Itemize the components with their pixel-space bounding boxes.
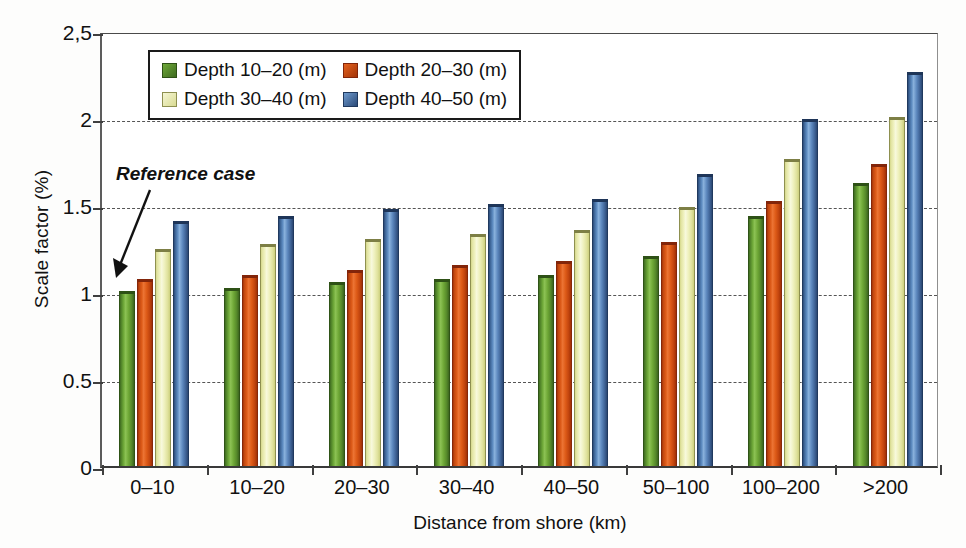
legend-item-label: Depth 20–30 (m) — [365, 59, 508, 81]
x-axis-tick — [207, 465, 209, 475]
bar-body — [137, 280, 153, 466]
legend-item-label: Depth 30–40 (m) — [184, 88, 327, 110]
bar-cap — [470, 234, 486, 237]
x-axis-tick — [731, 465, 733, 475]
bar-cap — [278, 216, 294, 219]
bar-body — [173, 222, 189, 466]
x-axis-tick — [940, 465, 942, 475]
bar-body — [889, 118, 905, 466]
y-axis-tick-label: 2,5 — [38, 21, 92, 45]
y-axis-tick-label: 2 — [38, 108, 92, 132]
bar — [224, 289, 240, 466]
bar — [173, 222, 189, 466]
bar-cap — [592, 199, 608, 202]
bar-body — [224, 289, 240, 466]
bar-cap — [260, 244, 276, 247]
bar-cap — [365, 239, 381, 242]
bar-cap — [766, 201, 782, 204]
bar-cap — [679, 207, 695, 210]
bar-body — [748, 217, 764, 466]
legend-item: Depth 10–20 (m) — [162, 59, 327, 81]
bar-cap — [853, 183, 869, 186]
legend-item-label: Depth 10–20 (m) — [184, 59, 327, 81]
reference-case-annotation: Reference case — [116, 163, 255, 185]
bar-body — [766, 202, 782, 466]
x-axis-tick — [102, 465, 104, 475]
bar-cap — [119, 291, 135, 294]
bar-body — [871, 165, 887, 466]
bar-body — [119, 292, 135, 466]
x-axis-category-label: >200 — [863, 476, 908, 499]
bar-body — [260, 245, 276, 466]
y-axis-tick-label: 0 — [38, 456, 92, 480]
bar — [853, 184, 869, 466]
legend-swatch-icon — [343, 63, 358, 78]
legend-item-label: Depth 40–50 (m) — [365, 88, 508, 110]
bar-body — [643, 257, 659, 466]
bar-body — [697, 175, 713, 466]
bar — [365, 240, 381, 466]
bar-cap — [347, 270, 363, 273]
x-axis-tick — [312, 465, 314, 475]
bar — [119, 292, 135, 466]
legend-swatch-icon — [343, 92, 358, 107]
bar-cap — [452, 265, 468, 268]
bar — [574, 231, 590, 466]
bar-cap — [224, 288, 240, 291]
chart-figure: Scale factor (%) 00.511.522,5 0–1010–202… — [0, 0, 966, 548]
bar-cap — [556, 261, 572, 264]
x-axis-title: Distance from shore (km) — [100, 512, 940, 534]
y-axis-tick-labels: 00.511.522,5 — [32, 33, 92, 468]
bar-cap — [155, 249, 171, 252]
bar — [452, 266, 468, 466]
bar-group — [626, 34, 731, 466]
bar-body — [488, 205, 504, 466]
x-axis-category-label: 0–10 — [130, 476, 175, 499]
bar — [556, 262, 572, 466]
bar — [242, 276, 258, 466]
bar-cap — [907, 72, 923, 75]
x-axis-category-label: 10–20 — [229, 476, 285, 499]
bar-body — [679, 208, 695, 466]
bar — [278, 217, 294, 466]
bar — [907, 73, 923, 466]
x-axis-tick — [835, 465, 837, 475]
bar-body — [383, 210, 399, 466]
bar-cap — [137, 279, 153, 282]
x-axis-tick — [416, 465, 418, 475]
y-axis-tick-label: 0.5 — [38, 369, 92, 393]
bar-cap — [538, 275, 554, 278]
bar-cap — [748, 216, 764, 219]
x-axis-category-label: 100–200 — [742, 476, 820, 499]
bar — [661, 243, 677, 466]
bar — [643, 257, 659, 466]
bar-body — [661, 243, 677, 466]
bar-body — [907, 73, 923, 466]
bar-body — [538, 276, 554, 466]
bar-body — [434, 280, 450, 466]
bar — [766, 202, 782, 466]
bar-body — [278, 217, 294, 466]
bar — [592, 200, 608, 466]
chart-legend: Depth 10–20 (m) Depth 20–30 (m) Depth 30… — [148, 50, 521, 120]
bar-body — [470, 235, 486, 466]
x-axis-category-label: 20–30 — [334, 476, 390, 499]
bar-cap — [434, 279, 450, 282]
x-axis-tick — [521, 465, 523, 475]
bar-group — [835, 34, 940, 466]
bar-cap — [242, 275, 258, 278]
bar-cap — [383, 209, 399, 212]
bar-body — [347, 271, 363, 466]
bar-cap — [574, 230, 590, 233]
bar-body — [365, 240, 381, 466]
bar-cap — [889, 117, 905, 120]
bar — [383, 210, 399, 466]
bar-group — [731, 34, 836, 466]
bar — [784, 160, 800, 466]
bar-body — [802, 120, 818, 466]
legend-swatch-icon — [162, 92, 177, 107]
bar — [329, 283, 345, 466]
y-axis-tick-label: 1 — [38, 282, 92, 306]
bar-body — [155, 250, 171, 466]
legend-item: Depth 40–50 (m) — [343, 88, 508, 110]
